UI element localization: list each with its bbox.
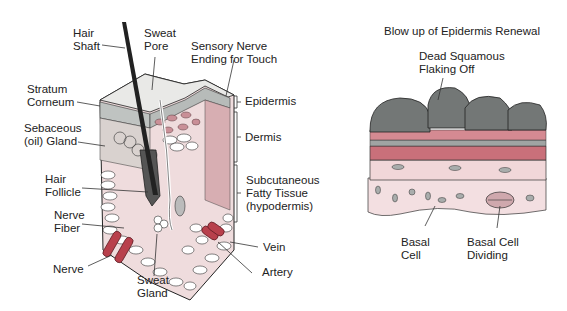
label-sensory-nerve: Sensory Nerve Ending for Touch (191, 40, 277, 66)
blowup-title: Blow up of Epidermis Renewal (384, 25, 540, 38)
label-sweat-pore: Sweat Pore (144, 27, 176, 53)
label-basal-cell-dividing: Basal Cell Dividing (467, 236, 519, 262)
label-subcutaneous: Subcutaneous Fatty Tissue (hypodermis) (246, 174, 320, 213)
label-artery: Artery (262, 266, 293, 279)
label-hair-follicle: Hair Follicle (45, 173, 81, 199)
label-hair-shaft: Hair Shaft (73, 27, 100, 53)
label-epidermis: Epidermis (245, 95, 296, 108)
label-sebaceous-gland: Sebaceous (oil) Gland (24, 122, 82, 148)
label-dermis: Dermis (245, 131, 281, 144)
label-basal-cell: Basal Cell (401, 236, 430, 262)
label-dead-squamous: Dead Squamous Flaking Off (419, 50, 505, 76)
label-sweat-gland: Sweat Gland (137, 274, 169, 300)
pink-band (370, 146, 546, 160)
label-vein: Vein (263, 241, 285, 254)
label-nerve-fiber: Nerve Fiber (54, 209, 85, 235)
label-nerve: Nerve (53, 263, 84, 276)
label-stratum-corneum: Stratum Corneum (27, 83, 74, 109)
dead-squamous-cells (370, 88, 546, 132)
